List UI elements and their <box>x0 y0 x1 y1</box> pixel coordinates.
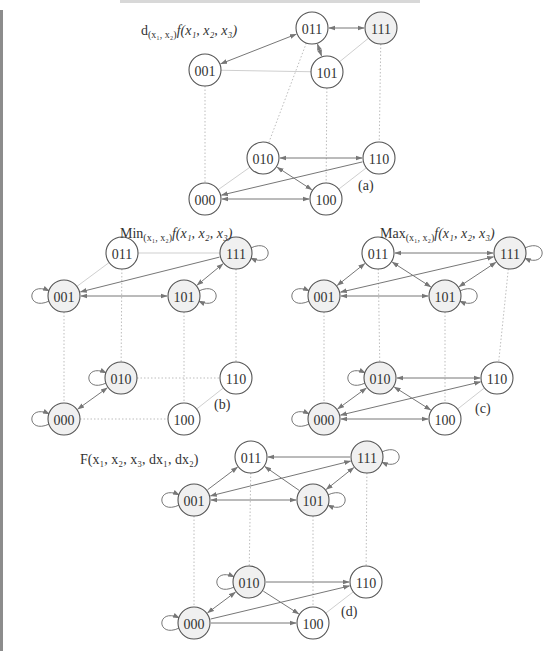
diagram-a: 100101110111011001010000d(x₁, x₂)f(x₁, x… <box>141 12 397 215</box>
node-label: 111 <box>226 247 246 262</box>
state-node-101: 101 <box>429 280 461 312</box>
node-label: 000 <box>54 413 75 428</box>
node-label: 110 <box>369 152 389 167</box>
diagram-title: d(x₁, x₂)f(x₁, x₂, x₃) <box>141 23 237 41</box>
state-node-010: 010 <box>233 566 265 598</box>
cube-edge <box>339 38 368 62</box>
self-loop-arrow <box>32 412 49 427</box>
cube-edge-dotted <box>499 269 509 362</box>
diagram-b: 100101110111011001010000Min(x₁, x₂)f(x₁,… <box>32 226 268 435</box>
subfigure-label: (d) <box>341 604 358 620</box>
self-loop-arrow <box>460 289 477 304</box>
cube-edge-dotted <box>366 473 367 566</box>
state-node-011: 011 <box>106 237 138 269</box>
node-label: 011 <box>241 451 261 466</box>
state-node-010: 010 <box>364 362 396 394</box>
bidirectional-transition-arrow <box>326 468 353 490</box>
bidirectional-transition-arrow <box>221 34 296 64</box>
node-label: 111 <box>371 22 391 37</box>
bidirectional-transition-arrow <box>394 387 430 410</box>
self-loop-arrow <box>162 616 179 631</box>
state-node-110: 110 <box>363 142 395 174</box>
title-part: d <box>141 23 148 38</box>
state-node-101: 101 <box>297 484 329 516</box>
diagram-c: 100101110111011001010000Max(x₁, x₂)f(x₁,… <box>292 226 542 435</box>
title-part: (x₁, x₂) <box>406 232 435 244</box>
self-loop-arrow <box>162 493 179 508</box>
cube-edge-dotted <box>121 269 122 362</box>
title-part: Max <box>380 226 406 241</box>
node-label: 001 <box>54 290 75 305</box>
transition-arrow <box>222 162 363 195</box>
cube-edge-dotted <box>379 44 381 142</box>
diagram-title: F(x₁, x₂, x₃, dx₁, dx₂) <box>80 452 199 468</box>
node-label: 011 <box>302 22 322 37</box>
state-node-111: 111 <box>365 12 397 44</box>
self-loop-arrow <box>251 246 268 261</box>
diagram-d: 100101110111011001010000F(x₁, x₂, x₃, dx… <box>80 441 399 639</box>
title-part: F(x₁, x₂, x₃, dx₁, dx₂) <box>80 452 199 468</box>
transition-arrow <box>263 591 298 614</box>
subfigure-label: (a) <box>358 178 374 194</box>
bidirectional-transition-arrow <box>277 167 312 189</box>
node-label: 100 <box>303 617 324 632</box>
node-label: 010 <box>239 576 260 591</box>
state-node-000: 000 <box>308 403 340 435</box>
self-loop-arrow <box>382 450 399 465</box>
state-node-000: 000 <box>178 607 210 639</box>
state-node-000: 000 <box>189 183 221 215</box>
self-loop-arrow <box>199 289 216 304</box>
self-loop-arrow <box>292 412 309 427</box>
bidirectional-transition-arrow <box>317 44 321 56</box>
state-node-100: 100 <box>429 403 461 435</box>
node-label: 110 <box>356 576 376 591</box>
title-part: f(x₁, x₂, x₃) <box>177 23 238 39</box>
state-node-110: 110 <box>350 566 382 598</box>
state-node-000: 000 <box>48 403 80 435</box>
node-label: 010 <box>370 372 391 387</box>
self-loop-arrow <box>292 289 309 304</box>
node-label: 101 <box>303 494 324 509</box>
node-label: 010 <box>111 372 132 387</box>
bidirectional-transition-arrow <box>392 262 430 287</box>
state-node-010: 010 <box>105 362 137 394</box>
node-label: 001 <box>195 64 216 79</box>
state-node-100: 100 <box>168 403 200 435</box>
title-part: f(x₁, x₂, x₃) <box>172 226 233 242</box>
node-label: 101 <box>317 66 338 81</box>
bidirectional-transition-arrow <box>210 461 350 496</box>
state-transition-diagrams: 100101110111011001010000d(x₁, x₂)f(x₁, x… <box>0 0 545 651</box>
transition-arrow <box>80 257 219 292</box>
bidirectional-transition-arrow <box>337 264 364 286</box>
self-loop-arrow <box>525 246 542 261</box>
bidirectional-transition-arrow <box>197 264 223 285</box>
node-label: 111 <box>500 247 520 262</box>
bidirectional-transition-arrow <box>459 262 496 286</box>
title-part: f(x₁, x₂, x₃) <box>434 226 495 242</box>
state-node-010: 010 <box>247 142 279 174</box>
self-loop-arrow <box>348 371 365 386</box>
self-loop-arrow <box>217 575 234 590</box>
subfigure-label: (c) <box>475 401 491 417</box>
bidirectional-transition-arrow <box>341 257 494 292</box>
state-node-100: 100 <box>297 607 329 639</box>
state-node-111: 111 <box>494 237 526 269</box>
cube-edge-dotted <box>326 88 327 183</box>
transition-arrow <box>208 467 238 490</box>
bidirectional-transition-arrow <box>338 388 367 409</box>
node-label: 010 <box>253 152 274 167</box>
node-label: 100 <box>435 413 456 428</box>
node-label: 110 <box>487 372 507 387</box>
node-label: 101 <box>435 290 456 305</box>
node-label: 011 <box>368 247 388 262</box>
node-label: 110 <box>226 372 246 387</box>
node-label: 011 <box>112 247 132 262</box>
self-loop-arrow <box>32 289 49 304</box>
state-node-110: 110 <box>220 362 252 394</box>
subfigure-label: (b) <box>214 397 231 413</box>
node-label: 000 <box>314 413 335 428</box>
title-part: (x₁, x₂) <box>143 232 172 244</box>
node-label: 000 <box>184 617 205 632</box>
cube-edge <box>221 70 311 71</box>
state-node-011: 011 <box>296 12 328 44</box>
